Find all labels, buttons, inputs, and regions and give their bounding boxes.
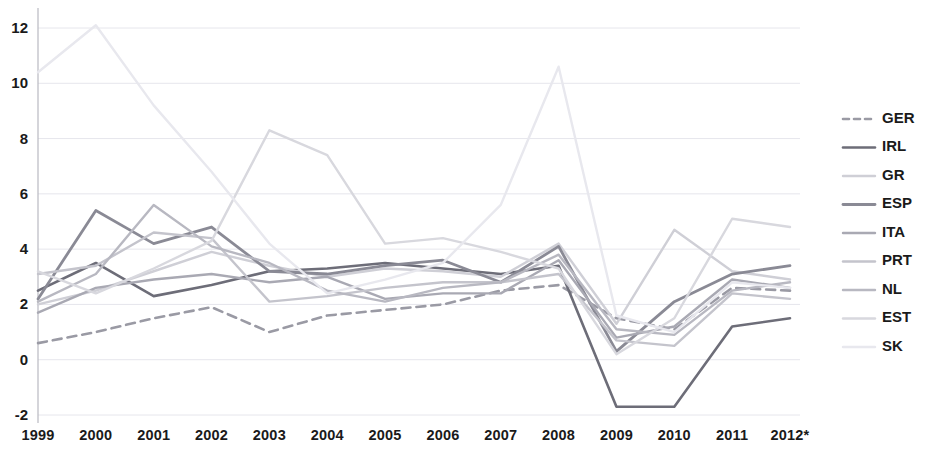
chart-legend: GERIRLGRESPITAPRTNLESTSK <box>843 109 915 354</box>
legend-label-prt: PRT <box>882 251 912 268</box>
data-series-group <box>38 25 790 406</box>
x-tick-label: 2004 <box>311 427 344 443</box>
x-tick-label: 2006 <box>426 427 459 443</box>
x-tick-label: 2007 <box>484 427 517 443</box>
x-tick-label: 2005 <box>369 427 402 443</box>
y-axis-tick-labels: -2024681012 <box>11 19 28 423</box>
x-tick-label: 2011 <box>716 427 748 443</box>
y-tick-label: -2 <box>15 406 28 423</box>
x-tick-label: 2008 <box>542 427 575 443</box>
x-tick-label: 2000 <box>79 427 112 443</box>
line-chart: -2024681012 1999200020012002200320042005… <box>0 0 926 451</box>
x-tick-label: 2009 <box>600 427 633 443</box>
legend-label-gr: GR <box>882 166 905 183</box>
chart-canvas: -2024681012 1999200020012002200320042005… <box>0 0 926 451</box>
legend-label-est: EST <box>882 308 911 325</box>
y-tick-label: 4 <box>20 240 29 257</box>
x-tick-label: 2003 <box>253 427 286 443</box>
x-tick-label: 2001 <box>137 427 170 443</box>
y-tick-label: 2 <box>20 295 28 312</box>
x-tick-label: 1999 <box>21 427 54 443</box>
legend-label-irl: IRL <box>882 137 906 154</box>
y-tick-label: 10 <box>11 74 28 91</box>
y-tick-label: 12 <box>11 19 28 36</box>
y-tick-label: 0 <box>20 351 28 368</box>
x-tick-label: 2010 <box>658 427 691 443</box>
legend-label-nl: NL <box>882 280 902 297</box>
x-axis-tick-labels: 1999200020012002200320042005200620072008… <box>21 427 809 443</box>
legend-label-sk: SK <box>882 337 903 354</box>
y-tick-label: 8 <box>20 130 28 147</box>
gridlines <box>38 28 800 415</box>
x-tick-label: 2002 <box>195 427 228 443</box>
legend-label-ita: ITA <box>882 223 905 240</box>
series-line-gr <box>38 230 790 324</box>
legend-label-esp: ESP <box>882 194 912 211</box>
legend-label-ger: GER <box>882 109 915 126</box>
y-tick-label: 6 <box>20 185 28 202</box>
x-tick-label: 2012* <box>771 427 810 443</box>
